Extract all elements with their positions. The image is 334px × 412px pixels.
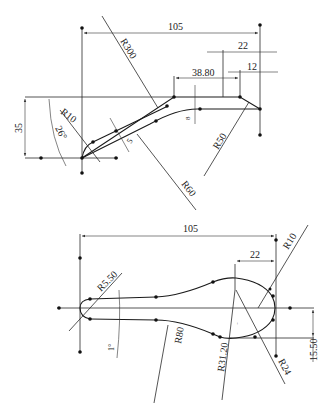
technical-drawing: 105 22 12 38.80 35 26° R10 R300 R60 R50 <box>0 0 334 412</box>
r50-label: R50 <box>210 131 228 151</box>
center-mark: + <box>236 321 239 326</box>
r80-label: R80 <box>172 326 186 344</box>
dim-8-label: 8 <box>184 116 192 120</box>
r5-50-end <box>80 299 90 319</box>
dim-12-label: 12 <box>247 61 257 72</box>
dim-5-line <box>110 118 129 152</box>
dim-22-bottom-label: 22 <box>250 249 260 260</box>
dim-38-80-label: 38.80 <box>192 67 215 78</box>
dim-15-50-label: 15.50 <box>308 339 319 362</box>
top-view-points <box>39 23 262 175</box>
dim-22-label: 22 <box>238 40 248 51</box>
r24-label: R24 <box>276 357 294 377</box>
r80-leader <box>154 325 168 403</box>
lower-profile <box>82 109 260 158</box>
dim-5-label: 5 <box>125 137 135 145</box>
bottom-view: 105 22 R10 R5.50 1° R80 R31.20 R24 15.50… <box>57 223 319 403</box>
dim-35-label: 35 <box>13 123 24 133</box>
r31-20-label: R31.20 <box>215 342 230 372</box>
r60-label: R60 <box>179 178 198 198</box>
r10-bottom-label: R10 <box>280 231 298 251</box>
angle-1-label: 1° <box>107 344 116 351</box>
angle-26-label: 26° <box>53 124 69 142</box>
inner-upper-edge <box>93 106 168 142</box>
r10-label: R10 <box>59 106 79 125</box>
dim-105-label: 105 <box>168 21 183 32</box>
r300-leader <box>102 16 158 108</box>
top-view: 105 22 12 38.80 35 26° R10 R300 R60 R50 <box>13 16 278 210</box>
r10-bottom-leader <box>258 225 308 308</box>
r60-leader <box>137 134 196 210</box>
dim-105-bottom-label: 105 <box>183 223 198 234</box>
angle-1-arc <box>117 290 120 358</box>
